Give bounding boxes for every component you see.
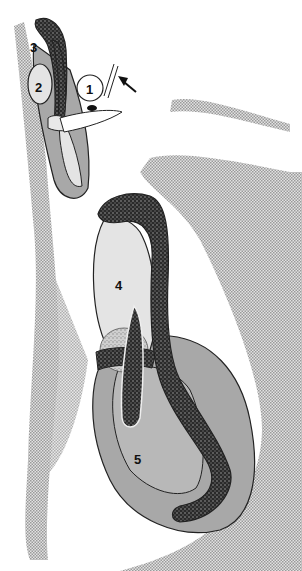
label-4: 4 [115, 278, 123, 293]
label-2: 2 [35, 80, 42, 95]
label-3: 3 [30, 40, 37, 55]
label-5: 5 [134, 452, 141, 467]
pointer-arrow [118, 76, 136, 92]
diagram-canvas: 3 2 1 4 5 [0, 0, 302, 571]
label-1: 1 [86, 82, 93, 97]
